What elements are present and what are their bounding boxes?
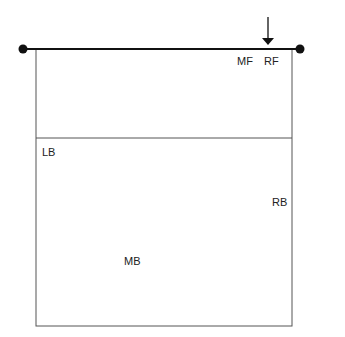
left-post-dot-icon	[19, 45, 28, 54]
position-label-rb: RB	[272, 197, 287, 208]
position-label-mb: MB	[124, 256, 141, 267]
court-diagram	[0, 0, 345, 337]
down-arrow-icon	[262, 17, 274, 45]
position-label-rf: RF	[264, 56, 279, 67]
position-label-mf: MF	[237, 56, 253, 67]
right-post-dot-icon	[296, 45, 305, 54]
position-label-lb: LB	[42, 147, 55, 158]
court-boundary	[36, 49, 292, 326]
